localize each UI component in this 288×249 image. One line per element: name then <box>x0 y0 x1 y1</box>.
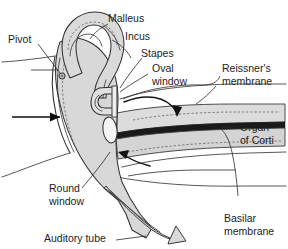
leader-reissners-down <box>196 86 216 104</box>
label-incus: Incus <box>125 30 150 42</box>
label-round-window-line2: window <box>48 195 84 207</box>
label-oval-window-line1: Oval <box>152 62 174 74</box>
label-auditory-tube: Auditory tube <box>44 232 106 244</box>
label-basilar-line1: Basilar <box>224 212 257 224</box>
ear-canal-lower-wall <box>2 153 70 177</box>
ear-canal-upper-wall <box>2 56 55 62</box>
ear-anatomy-diagram: Pivot Malleus Incus Stapes Oval window R… <box>0 0 288 249</box>
pivot-point-center <box>61 75 63 77</box>
leader-auditory-tube <box>116 236 146 240</box>
sound-wave-direction-arrow <box>12 113 60 122</box>
leader-oval-window <box>120 74 148 92</box>
label-reissners-line2: membrane <box>222 75 272 87</box>
ear-diagram-canvas: Pivot Malleus Incus Stapes Oval window R… <box>0 0 288 249</box>
label-reissners-line1: Reissner's <box>222 62 271 74</box>
label-pivot: Pivot <box>8 33 31 45</box>
label-round-window-line1: Round <box>49 182 80 194</box>
stapes-footplate <box>112 86 117 117</box>
label-organ-line1: Organ <box>240 121 269 133</box>
label-malleus: Malleus <box>108 12 144 24</box>
leader-stapes <box>120 58 142 88</box>
label-organ-line2: of Corti <box>240 134 274 146</box>
leader-basilar-to-wall <box>128 170 236 176</box>
label-oval-window-line2: window <box>151 75 187 87</box>
label-stapes: Stapes <box>141 47 174 59</box>
sound-arrow-head <box>50 113 60 122</box>
cochlea-bottom-outer-wall <box>112 176 286 186</box>
label-basilar-line2: membrane <box>224 225 274 237</box>
